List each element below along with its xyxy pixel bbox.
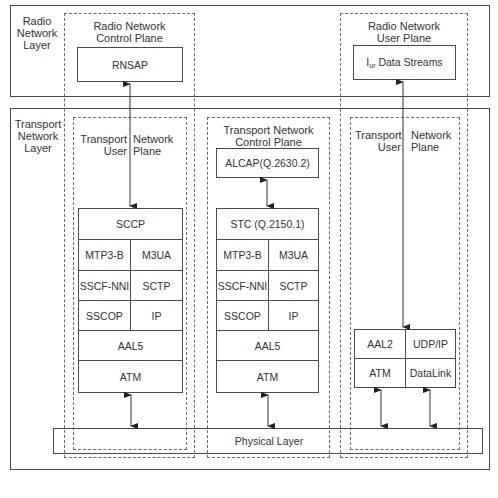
connector-arrows [0, 0, 498, 498]
